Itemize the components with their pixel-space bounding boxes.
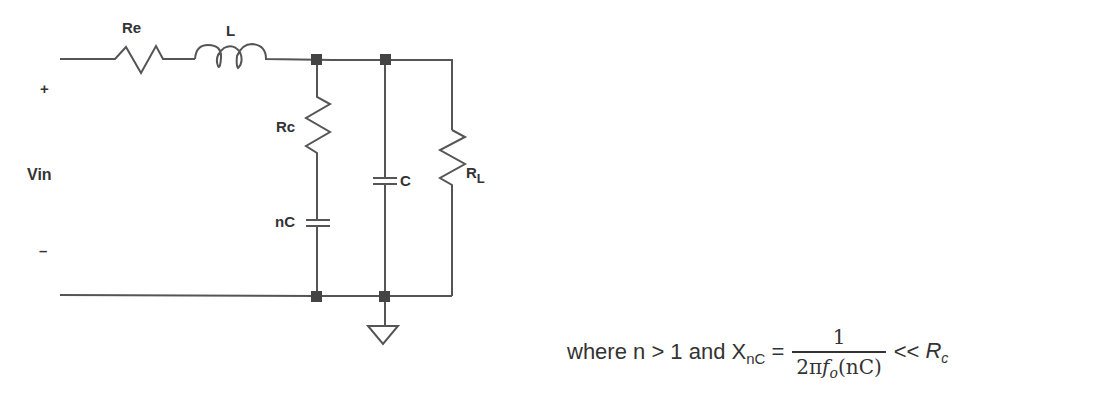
label-rl-sub: L bbox=[477, 171, 485, 186]
label-re: Re bbox=[122, 19, 141, 36]
ground-symbol bbox=[368, 326, 398, 344]
formula-prefix: where n > 1 and X bbox=[567, 339, 746, 365]
den-nc: (nC) bbox=[838, 355, 882, 379]
rhs-r: R bbox=[925, 338, 941, 363]
formula-equals: = bbox=[771, 339, 784, 365]
wire-bottom bbox=[60, 295, 452, 296]
den-f-sub: o bbox=[830, 365, 838, 381]
formula: where n > 1 and XnC = 1 2πfo(nC) << Rc bbox=[567, 322, 948, 382]
formula-comparator: << bbox=[894, 339, 920, 365]
label-rc: Rc bbox=[276, 118, 295, 135]
label-vin: Vin bbox=[27, 166, 52, 184]
label-c: C bbox=[400, 172, 411, 189]
node-top-2 bbox=[380, 54, 391, 65]
rhs-sub: c bbox=[941, 350, 948, 366]
formula-numerator: 1 bbox=[829, 325, 850, 351]
node-bottom-1 bbox=[311, 291, 322, 302]
node-bottom-2 bbox=[379, 291, 390, 302]
label-rl: RL bbox=[466, 164, 485, 181]
resistor-re bbox=[107, 46, 195, 73]
den-f: f bbox=[822, 355, 829, 379]
label-rl-main: R bbox=[466, 164, 477, 181]
node-top-1 bbox=[311, 54, 322, 65]
resistor-rl bbox=[440, 130, 465, 296]
label-plus: + bbox=[40, 80, 49, 97]
label-minus: – bbox=[39, 242, 47, 259]
label-l: L bbox=[226, 22, 235, 39]
resistor-rc bbox=[306, 60, 330, 218]
formula-rhs: Rc bbox=[925, 338, 948, 366]
formula-fraction: 1 2πfo(nC) bbox=[792, 325, 886, 379]
formula-denominator: 2πfo(nC) bbox=[792, 351, 886, 379]
capacitor-c bbox=[373, 178, 397, 296]
capacitor-nc bbox=[306, 218, 330, 296]
formula-x-sub: nC bbox=[746, 350, 765, 367]
label-nc: nC bbox=[275, 213, 295, 230]
wire-top-nodes bbox=[333, 60, 452, 130]
den-2pi: 2π bbox=[796, 355, 822, 379]
